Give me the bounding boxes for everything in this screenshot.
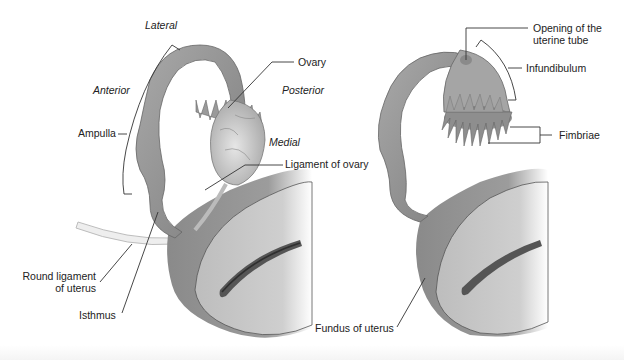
bottom-edge <box>0 345 624 360</box>
isthmus-leader <box>122 212 158 313</box>
anatomy-figure: Lateral Anterior Posterior Medial Ovary … <box>0 0 624 360</box>
label-ampulla: Ampulla <box>78 127 116 139</box>
label-opening-line1: Opening of the <box>533 22 602 34</box>
label-anterior: Anterior <box>93 84 130 96</box>
label-fimbriae: Fimbriae <box>559 129 600 141</box>
uterus-right <box>416 169 548 337</box>
label-round-ligament: Round ligament of uterus <box>20 270 96 294</box>
uterus-left <box>167 169 312 337</box>
label-infundibulum: Infundibulum <box>526 62 586 74</box>
label-medial: Medial <box>269 136 300 148</box>
label-ovary: Ovary <box>298 56 326 68</box>
label-ligament-of-ovary: Ligament of ovary <box>285 158 368 170</box>
ovary <box>210 100 265 185</box>
label-isthmus: Isthmus <box>79 309 116 321</box>
label-opening-line2: uterine tube <box>533 34 602 46</box>
round-ligament-leader <box>100 244 132 282</box>
label-posterior: Posterior <box>282 84 324 96</box>
fundus-leader <box>397 278 425 327</box>
label-lateral: Lateral <box>145 19 177 31</box>
label-round-ligament-line2: of uterus <box>20 282 96 294</box>
anatomy-illustration <box>0 0 624 360</box>
label-opening-of-uterine-tube: Opening of the uterine tube <box>533 22 602 46</box>
label-round-ligament-line1: Round ligament <box>20 270 96 282</box>
label-fundus-of-uterus: Fundus of uterus <box>315 322 394 334</box>
right-panel <box>378 28 552 336</box>
